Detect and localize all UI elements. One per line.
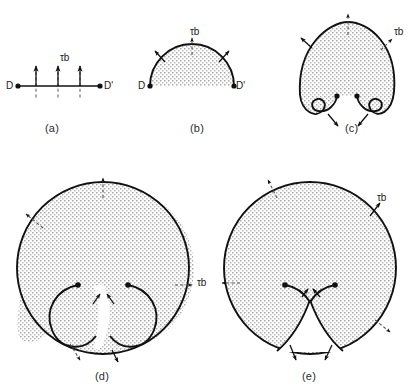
panel-a-node-d — [15, 83, 20, 88]
panel-b-loop-fill — [150, 44, 234, 86]
panel-e-node-left — [282, 282, 288, 288]
panel-caption-a: (a) — [45, 122, 59, 134]
panel-b-node-d — [147, 83, 152, 88]
panel-e-node-right — [332, 282, 338, 288]
node-label-d-a: D — [6, 80, 13, 91]
panel-caption-e: (e) — [302, 370, 316, 382]
node-label-d-b: D — [138, 80, 145, 91]
panel-c-node-left — [334, 93, 339, 98]
node-label-dp-a: D' — [104, 80, 113, 91]
panel-b-group — [147, 38, 236, 89]
panel-c-node-right — [354, 93, 359, 98]
panel-caption-d: (d) — [95, 370, 109, 382]
stress-label-b: τb — [190, 26, 199, 37]
frank-read-source-figure: (a) (b) (c) (d) (e) τb τb τb τb τb D D' … — [0, 0, 420, 387]
panel-d-node-right — [125, 282, 131, 288]
stress-label-a: τb — [60, 52, 69, 63]
panel-caption-c: (c) — [345, 122, 358, 134]
panel-a-node-dp — [97, 83, 102, 88]
panel-d-node-left — [75, 282, 81, 288]
panel-a-group — [15, 66, 102, 100]
stress-label-e: τb — [377, 192, 386, 203]
panel-caption-b: (b) — [190, 122, 204, 134]
panel-a-force-arrows — [36, 66, 80, 86]
stress-label-c: τb — [394, 26, 403, 37]
node-label-dp-b: D' — [236, 80, 245, 91]
stress-label-d: τb — [197, 277, 206, 288]
panel-e-group — [222, 180, 396, 360]
panel-c-group — [300, 14, 395, 126]
panel-d-group — [17, 178, 194, 362]
